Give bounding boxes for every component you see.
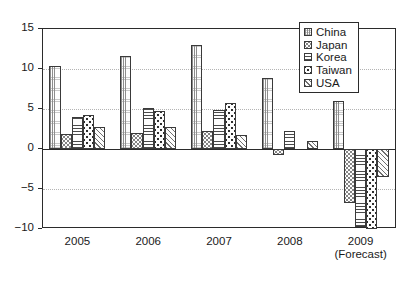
- bar-japan-2009: [344, 149, 355, 203]
- legend-item-taiwan: Taiwan: [304, 64, 352, 77]
- bar-china-2009: [333, 101, 344, 149]
- bar-korea-2008: [284, 131, 295, 149]
- bar-taiwan-2007: [225, 103, 236, 149]
- legend-swatch-coarse-dots-icon: [304, 66, 312, 74]
- legend-item-usa: USA: [304, 76, 352, 89]
- legend-swatch-diagonal-lines-icon: [304, 79, 312, 87]
- bar-korea-2009: [355, 149, 366, 227]
- legend-label: Taiwan: [316, 64, 352, 76]
- bar-japan-2007: [202, 131, 213, 149]
- y-axis-tick-label: 15: [0, 22, 34, 33]
- bar-china-2007: [191, 45, 202, 149]
- bar-china-2005: [49, 66, 60, 149]
- bar-japan-2006: [131, 133, 142, 149]
- legend-swatch-fine-stipple-dots-icon: [304, 41, 312, 49]
- bar-taiwan-2006: [154, 111, 165, 149]
- zero-axis-line: [43, 149, 395, 150]
- bar-china-2008: [262, 78, 273, 149]
- legend-label: Japan: [316, 39, 347, 51]
- y-axis-tick-label: 10: [0, 62, 34, 73]
- bar-chart: 151050−5−10 20052006200720082009(Forecas…: [0, 0, 414, 282]
- bar-korea-2005: [72, 117, 83, 149]
- bar-japan-2008: [273, 149, 284, 155]
- x-axis-tick-label: 2009: [348, 235, 374, 247]
- x-axis-tick-label: 2006: [135, 235, 161, 247]
- x-axis-sublabel: (Forecast): [316, 248, 406, 261]
- legend-label: USA: [316, 77, 340, 89]
- bar-usa-2007: [236, 135, 247, 149]
- legend-label: Korea: [316, 51, 347, 63]
- legend-item-japan: Japan: [304, 39, 352, 52]
- legend: ChinaJapanKoreaTaiwanUSA: [299, 22, 359, 93]
- legend-item-korea: Korea: [304, 51, 352, 64]
- x-axis-tick-label: 2007: [206, 235, 232, 247]
- legend-label: China: [316, 26, 346, 38]
- y-axis-tick-mark: [38, 228, 42, 229]
- x-axis-group-label: 2009(Forecast): [316, 235, 406, 261]
- bar-china-2006: [120, 56, 131, 149]
- x-axis-tick-label: 2005: [65, 235, 91, 247]
- bar-taiwan-2009: [366, 149, 377, 229]
- bar-korea-2007: [213, 110, 224, 149]
- bar-usa-2008: [307, 141, 318, 149]
- x-axis-tick-label: 2008: [277, 235, 303, 247]
- legend-item-china: China: [304, 26, 352, 39]
- bar-usa-2005: [94, 127, 105, 149]
- bar-usa-2006: [165, 127, 176, 149]
- bar-korea-2006: [143, 108, 154, 149]
- legend-swatch-vertical-dotted-lines-icon: [304, 28, 312, 36]
- legend-swatch-horizontal-lines-icon: [304, 53, 312, 61]
- y-axis-tick-label: −10: [0, 222, 34, 233]
- bar-taiwan-2005: [83, 115, 94, 149]
- gridline: [43, 189, 395, 190]
- y-axis-tick-label: 0: [0, 142, 34, 153]
- y-axis-tick-label: 5: [0, 102, 34, 113]
- y-axis-tick-label: −5: [0, 182, 34, 193]
- bar-japan-2005: [61, 134, 72, 149]
- bar-usa-2009: [377, 149, 388, 177]
